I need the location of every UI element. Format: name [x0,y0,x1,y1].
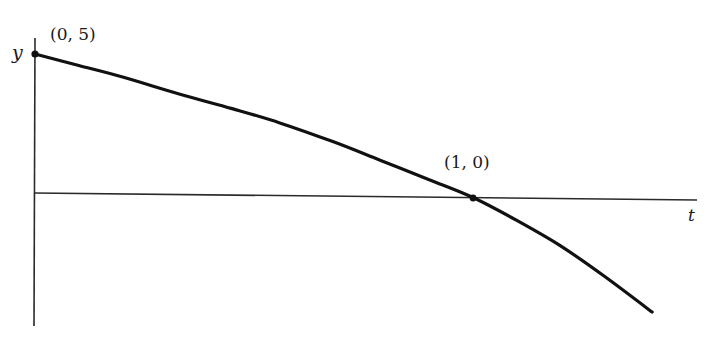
point-start-label: (0, 5) [50,24,96,44]
y-axis [34,38,35,326]
t-axis [34,193,697,200]
curve [35,54,652,312]
y-axis-label: y [11,41,23,63]
point-root-marker [470,195,477,202]
t-axis-label: t [688,205,695,225]
graph: y (0, 5) (1, 0) t [0,0,711,338]
point-root-label: (1, 0) [444,152,490,172]
point-start-marker [31,50,38,57]
